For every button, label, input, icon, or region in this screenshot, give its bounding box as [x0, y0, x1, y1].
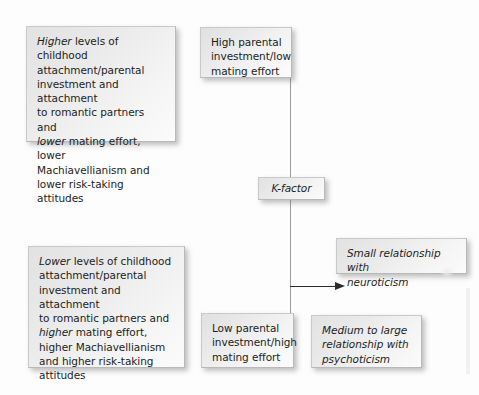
connector-high-investment-to-k-factor: [290, 78, 291, 177]
node-high-investment-line3: mating effort: [211, 65, 279, 77]
node-low-attachment-description: Lower levels of childhood attachment/par…: [28, 246, 185, 368]
node-low-attachment-line5-rest: mating effort,: [72, 326, 147, 338]
node-low-attachment-line7: and higher risk-taking: [39, 355, 153, 367]
node-low-attachment-line5-emphasis: higher: [39, 326, 72, 338]
node-high-attachment-line7: lower risk-taking: [37, 178, 124, 190]
node-low-attachment-line1-rest: levels of childhood: [70, 255, 171, 267]
node-low-investment-line1: Low parental: [212, 322, 279, 334]
arrow-shaft: [290, 286, 338, 287]
scan-artifact-corner: [440, 266, 454, 278]
node-low-attachment-line1-emphasis: Lower: [39, 255, 70, 267]
arrow-head-icon: [335, 282, 345, 290]
node-k-factor: K-factor: [258, 177, 325, 200]
flow-diagram-canvas: Higher levels of childhood attachment/pa…: [0, 0, 479, 395]
node-low-attachment-line8: attitudes: [39, 369, 86, 381]
node-low-attachment-line6: higher Machiavellianism: [39, 341, 165, 353]
node-high-attachment-line3: investment and attachment: [37, 78, 119, 104]
node-high-attachment-line1-emphasis: Higher: [37, 35, 72, 47]
node-high-parental-investment: High parental investment/low mating effo…: [200, 27, 292, 78]
node-psychoticism-line1: Medium to large: [322, 324, 407, 336]
connector-k-factor-to-psychoticism-arrow: [290, 282, 348, 291]
node-neuroticism-line1: Small relationship with: [347, 247, 441, 273]
node-psychoticism-line2: relationship with: [322, 338, 409, 350]
node-high-investment-line2: investment/low: [211, 50, 291, 62]
node-high-attachment-line4: to romantic partners and: [37, 106, 144, 132]
node-high-attachment-line6: Machiavellianism and: [37, 164, 150, 176]
node-neuroticism-line2: neuroticism: [347, 276, 408, 288]
node-low-parental-investment: Low parental investment/high mating effo…: [201, 313, 294, 368]
node-low-investment-line3: mating effort: [212, 351, 280, 363]
node-low-attachment-line3: investment and attachment: [39, 284, 121, 310]
node-psychoticism-line3: psychoticism: [322, 353, 390, 365]
node-low-investment-line2: investment/high: [212, 336, 297, 348]
node-high-attachment-description: Higher levels of childhood attachment/pa…: [26, 26, 176, 142]
node-high-investment-line1: High parental: [211, 36, 282, 48]
connector-k-factor-to-low-investment: [290, 200, 291, 313]
node-high-attachment-line5-emphasis: lower: [37, 135, 65, 147]
node-psychoticism-relationship: Medium to large relationship with psycho…: [311, 315, 422, 368]
node-high-attachment-line2: attachment/parental: [37, 64, 144, 76]
node-high-attachment-line8: attitudes: [37, 192, 84, 204]
node-low-attachment-line2: attachment/parental: [39, 269, 146, 281]
node-low-attachment-line4: to romantic partners and: [39, 312, 169, 324]
node-k-factor-label-rest: -factor: [277, 182, 311, 194]
scan-artifact-edge-band: [466, 288, 470, 374]
